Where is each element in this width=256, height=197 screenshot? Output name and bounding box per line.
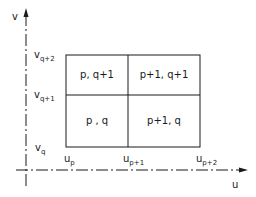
v-tick-q+1: vq+1 xyxy=(34,90,55,103)
u-axis-arrow-icon xyxy=(239,168,248,173)
v-tick-q: vq xyxy=(35,143,45,156)
cell-p-q: p , q xyxy=(66,116,128,126)
v-axis-label: v xyxy=(12,12,18,22)
cell-p+1-q: p+1, q xyxy=(128,116,200,126)
v-axis-arrow-icon xyxy=(24,8,29,17)
cell-p-q+1: p, q+1 xyxy=(66,70,128,80)
v-tick-q+2: vq+2 xyxy=(34,50,55,63)
u-axis-label: u xyxy=(232,180,238,190)
u-tick-p+1: up+1 xyxy=(123,154,144,167)
u-tick-p+2: up+2 xyxy=(196,154,217,167)
u-tick-p: up xyxy=(64,154,75,167)
cell-p+1-q+1: p+1, q+1 xyxy=(128,70,200,80)
